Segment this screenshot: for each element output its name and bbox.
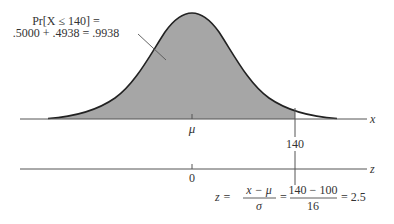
normal-distribution-diagram: x μ 140 z 0 Pr[X ≤ 140] = .5000 + .4938 …	[0, 0, 394, 224]
formula-frac1-den: σ	[256, 199, 263, 213]
formula-frac2-den: 16	[307, 199, 319, 213]
zero-label: 0	[189, 171, 195, 185]
formula-result: = 2.5	[341, 190, 366, 204]
formula-frac2-num: 140 − 100	[289, 183, 338, 197]
formula-lhs: z =	[214, 190, 231, 204]
z-axis-label: z	[369, 162, 375, 176]
mu-label: μ	[188, 121, 196, 136]
x140-label: 140	[286, 137, 304, 151]
formula-frac1-num: x − μ	[245, 183, 271, 197]
formula-eq1: =	[280, 190, 287, 204]
x-axis-label: x	[369, 112, 376, 126]
annotation-line2: .5000 + .4938 = .9938	[13, 26, 120, 40]
